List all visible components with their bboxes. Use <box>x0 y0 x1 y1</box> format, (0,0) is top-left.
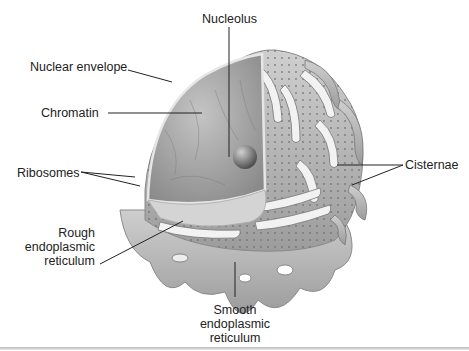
nucleolus-label: Nucleolus <box>202 12 257 26</box>
chromatin-label: Chromatin <box>41 106 99 120</box>
smooth-er-line-2: endoplasmic <box>195 317 275 331</box>
smooth-er-line-1: Smooth <box>195 303 275 317</box>
smooth-er-label: Smooth endoplasmic reticulum <box>195 303 275 345</box>
ribosomes-label: Ribosomes <box>17 166 80 180</box>
rough-er-line-2: endoplasmic <box>20 240 95 254</box>
nuclear-envelope-label: Nuclear envelope <box>30 60 127 74</box>
nucleolus-body <box>233 145 257 169</box>
rough-er-label: Rough endoplasmic reticulum <box>20 226 95 268</box>
rough-er-line-1: Rough <box>20 226 95 240</box>
rough-er-line-3: reticulum <box>20 254 95 268</box>
bottom-divider <box>0 347 469 350</box>
cisternae-label: Cisternae <box>405 158 459 172</box>
smooth-er-line-3: reticulum <box>195 331 275 345</box>
